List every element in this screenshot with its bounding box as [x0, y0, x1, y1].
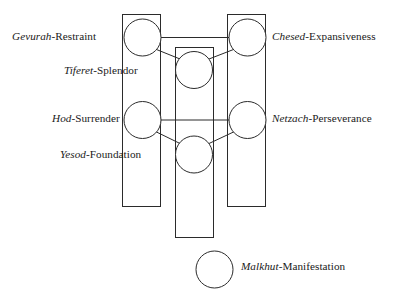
label-malkhut-hebrew: Malkhut [241, 260, 279, 272]
label-gevurah: Gevurah-Restraint [12, 30, 96, 42]
label-tiferet: Tiferet-Splendor [64, 64, 138, 76]
label-chesed-english: Expansiveness [309, 30, 376, 42]
node-netzach [229, 102, 266, 139]
label-gevurah-hebrew: Gevurah [12, 30, 52, 42]
node-malkhut [196, 251, 233, 288]
label-hod-hebrew: Hod [52, 112, 71, 124]
node-hod [124, 102, 161, 139]
node-gevurah [124, 19, 161, 56]
connector-chesed-tiferet [209, 50, 234, 60]
node-group [124, 19, 266, 288]
node-chesed [229, 19, 266, 56]
label-chesed: Chesed-Expansiveness [272, 30, 376, 42]
label-tiferet-hebrew: Tiferet [64, 64, 93, 76]
label-malkhut-english: Manifestation [282, 260, 345, 272]
label-malkhut: Malkhut-Manifestation [241, 260, 345, 272]
label-yesod: Yesod-Foundation [60, 148, 141, 160]
label-yesod-english: Foundation [90, 148, 141, 160]
label-hod: Hod-Surrender [52, 112, 120, 124]
label-netzach: Netzach-Perseverance [272, 112, 372, 124]
label-chesed-hebrew: Chesed [272, 30, 305, 42]
node-yesod [176, 136, 213, 173]
label-yesod-hebrew: Yesod [60, 148, 86, 160]
label-netzach-hebrew: Netzach [272, 112, 308, 124]
label-hod-english: Surrender [75, 112, 120, 124]
label-netzach-english: Perseverance [312, 112, 372, 124]
label-gevurah-english: Restraint [55, 30, 96, 42]
label-tiferet-english: Splendor [97, 64, 138, 76]
node-tiferet [176, 52, 213, 89]
connector-netzach-yesod [209, 132, 234, 144]
sefirot-diagram: Gevurah-Restraint Chesed-Expansiveness T… [0, 0, 412, 302]
